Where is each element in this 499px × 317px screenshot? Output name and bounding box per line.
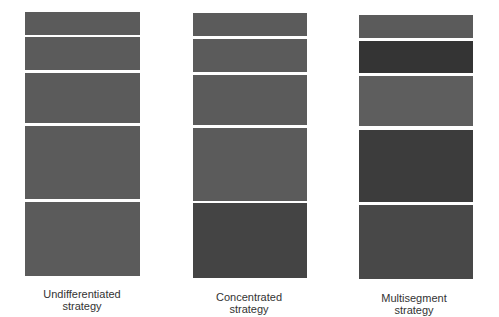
segment-1 [359,15,473,38]
column-concentrated [193,0,307,300]
label-multisegment: Multisegment strategy [344,292,484,316]
segment-4 [25,126,140,199]
segment-5 [359,205,473,279]
segment-2 [25,37,140,70]
label-undifferentiated: Undifferentiated strategy [12,288,152,312]
segment-2 [359,41,473,73]
column-multisegment [359,0,473,300]
segment-2 [193,39,307,72]
segment-3 [193,75,307,125]
label-line-2: strategy [12,300,152,312]
label-line-1: Concentrated [179,291,319,303]
label-concentrated: Concentrated strategy [179,291,319,315]
label-line-2: strategy [179,303,319,315]
label-line-2: strategy [344,304,484,316]
segment-3 [359,76,473,126]
segment-5 [25,202,140,276]
segment-4 [193,128,307,201]
segment-4 [359,130,473,202]
segment-3 [25,73,140,123]
segment-1 [25,12,140,35]
segment-1 [193,13,307,36]
label-line-1: Undifferentiated [12,288,152,300]
label-line-1: Multisegment [344,292,484,304]
segment-5 [193,203,307,278]
column-undifferentiated [25,0,140,300]
